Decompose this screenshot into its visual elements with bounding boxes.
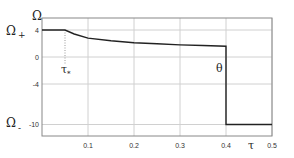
omega-plus-label: Ω (6, 24, 16, 38)
svg-text:0.4: 0.4 (221, 142, 231, 149)
svg-text:-10: -10 (29, 121, 39, 128)
omega-plus-subscript: + (18, 30, 26, 40)
chart: 0.10.20.30.40.5 40-4-10 Ω Ω + Ω - τ * θ … (0, 0, 294, 158)
y-tick-labels: 40-4-10 (29, 27, 39, 129)
plot-frame (42, 18, 272, 136)
tau-star-subscript: * (67, 70, 71, 78)
x-axis-label: τ (248, 139, 254, 152)
svg-text:0.5: 0.5 (267, 142, 277, 149)
svg-text:0.3: 0.3 (175, 142, 185, 149)
svg-text:4: 4 (35, 27, 39, 34)
svg-text:0: 0 (35, 54, 39, 61)
omega-curve (42, 30, 272, 125)
svg-text:0.2: 0.2 (129, 142, 139, 149)
omega-minus-subscript: - (18, 123, 21, 133)
theta-label: θ (216, 62, 223, 75)
omega-minus-label: Ω (6, 116, 16, 130)
grid-lines (42, 18, 272, 136)
svg-text:-4: -4 (33, 81, 39, 88)
svg-text:0.1: 0.1 (83, 142, 93, 149)
y-axis-label: Ω (32, 9, 42, 23)
